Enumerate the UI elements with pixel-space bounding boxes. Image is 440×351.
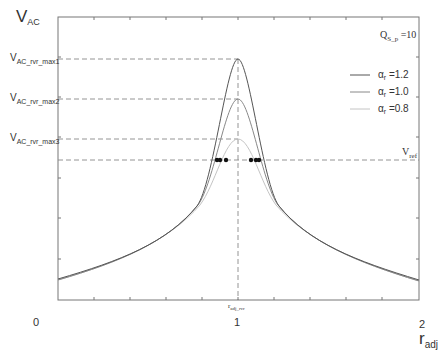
reference-lines [58,59,419,300]
x-axis-label: radj [419,329,438,350]
max3-label: VAC_rvr_max3 [10,132,59,145]
y-ticks [58,57,419,259]
vref-label: Vref [402,146,417,160]
resonance-chart [0,0,440,351]
curve-alpha-1.0 [58,99,419,281]
y-axis-label: VAC [16,7,40,27]
legend-lines [350,75,370,109]
x-tick-0: 0 [33,316,39,328]
max2-label: VAC_rvr_max2 [10,92,59,105]
legend-item-3: αr =0.8 [378,103,409,115]
q-annotation: QS_p =10 [380,29,416,43]
legend-item-2: αr =1.0 [378,86,409,98]
legend-item-1: αr =1.2 [378,69,409,81]
x-center-label: radj_rvr [228,302,245,311]
max1-label: VAC_rvr_max1 [10,52,59,65]
x-tick-1: 1 [234,316,240,328]
